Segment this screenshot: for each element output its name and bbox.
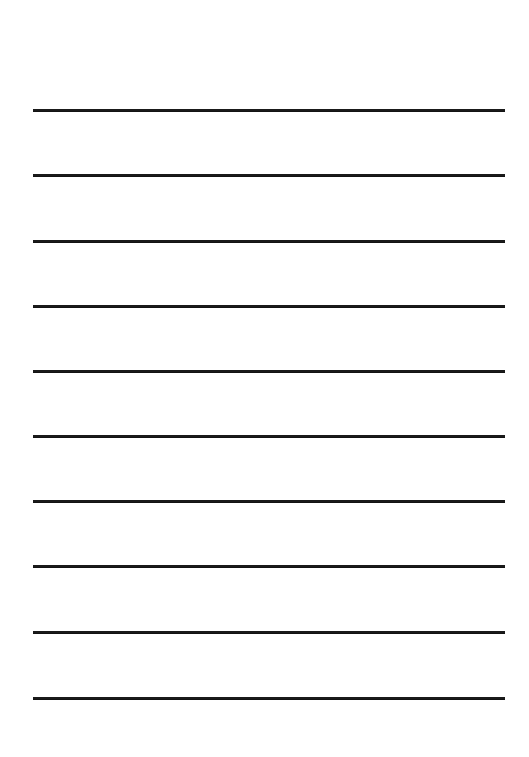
lined-page [0, 0, 529, 757]
ruled-line-10 [33, 697, 505, 700]
ruled-line-3 [33, 240, 505, 243]
ruled-line-9 [33, 631, 505, 634]
ruled-line-2 [33, 174, 505, 177]
ruled-line-1 [33, 109, 505, 112]
ruled-line-4 [33, 305, 505, 308]
ruled-line-5 [33, 370, 505, 373]
ruled-line-8 [33, 565, 505, 568]
ruled-line-7 [33, 500, 505, 503]
ruled-line-6 [33, 435, 505, 438]
